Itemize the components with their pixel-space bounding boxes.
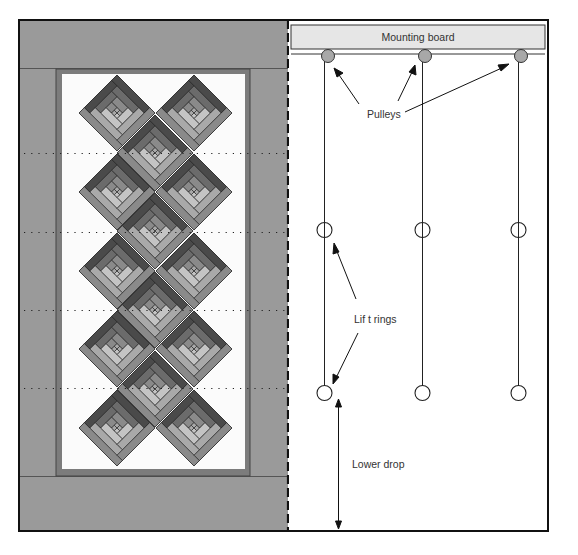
back-panel bbox=[289, 20, 548, 531]
pulley-icon bbox=[322, 50, 335, 63]
mounting-board-label: Mounting board bbox=[382, 31, 455, 43]
pulley-icon bbox=[419, 50, 432, 63]
pulley-icon bbox=[515, 50, 528, 63]
quilt-back-view: Mounting board Pulleys Lif t rings bbox=[289, 20, 548, 531]
pulleys-label: Pulleys bbox=[367, 108, 401, 120]
lower-drop-label: Lower drop bbox=[352, 458, 405, 470]
quilt-hanging-diagram: Mounting board Pulleys Lif t rings bbox=[0, 0, 578, 555]
lift-rings-label: Lif t rings bbox=[354, 313, 397, 325]
quilt-front-view bbox=[19, 20, 288, 531]
